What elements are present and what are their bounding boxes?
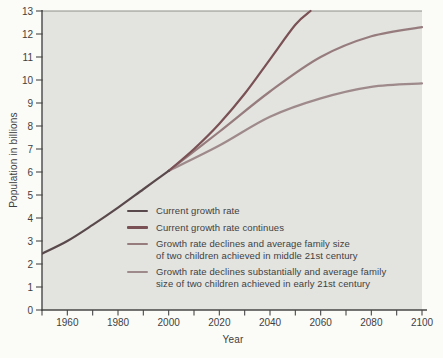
legend-label: Growth rate declines substantially and a…	[156, 266, 386, 289]
y-tick-label: 4	[27, 213, 33, 224]
y-axis-title: Population in billions	[8, 112, 19, 208]
y-tick-label: 1	[27, 282, 33, 293]
x-axis-title: Year	[222, 334, 243, 345]
x-tick-label: 2080	[360, 317, 383, 328]
legend-label-line: size of two children achieved in early 2…	[156, 278, 386, 290]
y-tick-label: 7	[27, 144, 33, 155]
legend-item-growth-rate-declines-and-average-family-size: Growth rate declines and average family …	[127, 238, 386, 261]
legend-swatch	[127, 210, 148, 213]
legend-label-line: Current growth rate continues	[156, 222, 284, 234]
y-tick-label: 6	[27, 167, 33, 178]
legend-item-current-growth-rate: Current growth rate	[127, 205, 386, 217]
y-tick-label: 8	[27, 121, 33, 132]
legend-item-growth-rate-declines-substantially-and-avera: Growth rate declines substantially and a…	[127, 266, 386, 289]
x-tick-label: 2060	[310, 317, 333, 328]
legend-swatch	[127, 226, 148, 229]
y-tick-label: 3	[27, 236, 33, 247]
chart-canvas: 0123456789101112131960198020002020204020…	[0, 0, 443, 358]
y-tick-label: 13	[22, 6, 34, 17]
y-tick-label: 9	[27, 98, 33, 109]
y-tick-label: 0	[27, 305, 33, 316]
legend: Current growth rateCurrent growth rate c…	[127, 205, 386, 289]
population-growth-chart: 0123456789101112131960198020002020204020…	[0, 0, 443, 358]
y-tick-label: 12	[22, 29, 34, 40]
legend-label-line: Growth rate declines substantially and a…	[156, 266, 386, 278]
legend-label-line: Growth rate declines and average family …	[156, 238, 358, 250]
legend-swatch	[127, 271, 148, 274]
legend-label: Growth rate declines and average family …	[156, 238, 358, 261]
legend-label-line: of two children achieved in middle 21st …	[156, 250, 358, 262]
legend-label-line: Current growth rate	[156, 205, 240, 217]
x-tick-label: 1960	[56, 317, 79, 328]
x-tick-label: 1980	[107, 317, 130, 328]
x-tick-label: 2040	[259, 317, 282, 328]
x-tick-label: 2000	[158, 317, 181, 328]
x-tick-label: 2100	[411, 317, 434, 328]
y-tick-label: 11	[23, 52, 34, 63]
y-tick-label: 10	[22, 75, 34, 86]
legend-label: Current growth rate continues	[156, 222, 284, 234]
legend-swatch	[127, 243, 148, 246]
legend-label: Current growth rate	[156, 205, 240, 217]
legend-item-current-growth-rate-continues: Current growth rate continues	[127, 222, 386, 234]
x-tick-label: 2020	[208, 317, 231, 328]
y-tick-label: 2	[27, 259, 33, 270]
y-tick-label: 5	[27, 190, 33, 201]
